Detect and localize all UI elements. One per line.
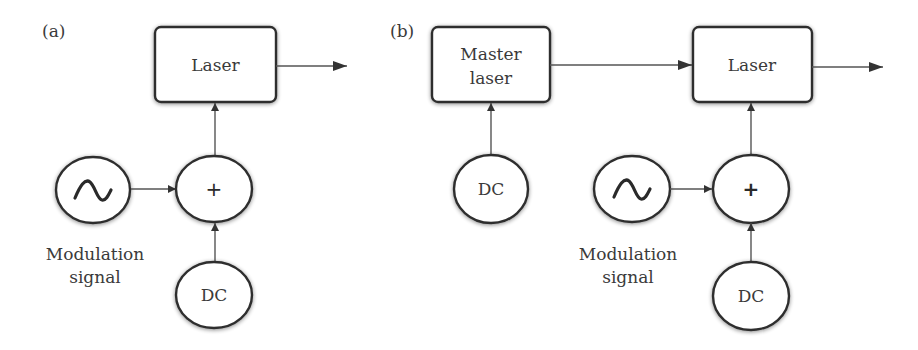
modulation-caption-line2-a: signal: [69, 267, 121, 287]
master-dc-source: DC: [454, 155, 528, 223]
laser-modulation-diagram: (a) Laser Modulation signal + DC: [0, 0, 918, 350]
plus-symbol-b: +: [743, 177, 760, 201]
dc-label-b: DC: [738, 286, 765, 306]
modulation-circle-b: [594, 156, 670, 222]
master-dc-label: DC: [478, 179, 505, 199]
panel-label-b: (b): [390, 21, 414, 41]
summer-b: +: [713, 155, 789, 223]
dc-source-b: DC: [713, 262, 789, 330]
panel-a: (a) Laser Modulation signal + DC: [42, 21, 347, 328]
modulation-source-b: [594, 156, 670, 222]
laser-block-b: Laser: [693, 27, 812, 102]
modulation-source-a: [56, 157, 130, 223]
master-laser-box: [432, 27, 550, 102]
dc-label-a: DC: [201, 285, 228, 305]
modulation-caption-line2-b: signal: [602, 267, 654, 287]
master-laser-label-line1: Master: [460, 44, 522, 64]
panel-label-a: (a): [42, 21, 65, 41]
plus-symbol-a: +: [206, 177, 223, 201]
panel-b: (b) Master laser DC Laser Modulatio: [390, 21, 883, 330]
dc-source-a: DC: [176, 262, 252, 328]
laser-block-a: Laser: [155, 27, 276, 102]
modulation-caption-line1-b: Modulation: [579, 244, 678, 264]
summer-a: +: [176, 156, 252, 222]
modulation-caption-line1-a: Modulation: [46, 244, 145, 264]
laser-label-a: Laser: [191, 55, 240, 75]
master-laser-label-line2: laser: [470, 68, 513, 88]
modulation-circle-a: [56, 157, 130, 223]
laser-label-b: Laser: [728, 55, 777, 75]
master-laser-block: Master laser: [432, 27, 550, 102]
